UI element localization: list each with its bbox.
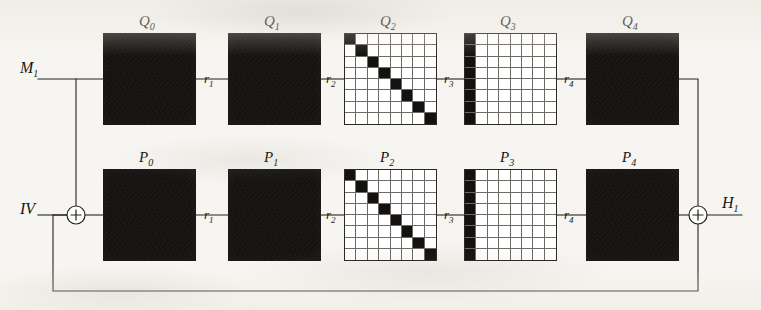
matrix-cell xyxy=(345,45,356,56)
matrix-cell xyxy=(379,215,390,226)
matrix-cell xyxy=(402,204,413,215)
matrix-cell xyxy=(522,204,533,215)
matrix-cell xyxy=(345,193,356,204)
matrix-cell xyxy=(465,238,476,249)
matrix-cell xyxy=(465,226,476,237)
block-p2[interactable] xyxy=(344,169,437,261)
block-q2[interactable] xyxy=(344,33,437,125)
block-p3[interactable] xyxy=(464,169,557,261)
matrix-cell xyxy=(391,45,402,56)
matrix-cell xyxy=(465,181,476,192)
matrix-cell xyxy=(533,68,544,79)
matrix-cell xyxy=(533,79,544,90)
matrix-cell xyxy=(499,204,510,215)
matrix-cell xyxy=(522,249,533,260)
matrix-cell xyxy=(545,68,556,79)
block-p4[interactable] xyxy=(586,169,679,261)
matrix-cell xyxy=(368,193,379,204)
matrix-cell xyxy=(425,90,436,101)
matrix-cell xyxy=(356,170,367,181)
label-r1-top: r1 xyxy=(204,72,214,89)
matrix-cell xyxy=(391,170,402,181)
matrix-cell xyxy=(356,68,367,79)
matrix-cell xyxy=(522,238,533,249)
matrix-cell xyxy=(391,102,402,113)
block-q0[interactable] xyxy=(103,33,196,125)
matrix-cell xyxy=(379,113,390,124)
matrix-cell xyxy=(356,249,367,260)
matrix-cell xyxy=(476,170,487,181)
label-p1: P1 xyxy=(264,150,278,168)
matrix-cell xyxy=(402,113,413,124)
matrix-cell xyxy=(413,170,424,181)
matrix-cell xyxy=(488,45,499,56)
matrix-cell xyxy=(368,57,379,68)
matrix-cell xyxy=(413,90,424,101)
matrix-cell xyxy=(391,34,402,45)
matrix-cell xyxy=(488,113,499,124)
matrix-cell xyxy=(413,45,424,56)
diagram-canvas: Q0 Q1 Q2 Q3 Q4 P0 P1 P2 P3 P4 r1 r2 r3 r… xyxy=(0,0,761,310)
label-iv-input: IV xyxy=(20,201,35,217)
matrix-cell xyxy=(465,215,476,226)
matrix-cell xyxy=(425,34,436,45)
label-r1-bottom: r1 xyxy=(204,208,214,225)
matrix-cell xyxy=(345,204,356,215)
label-message-input: M1 xyxy=(20,60,38,79)
matrix-cell xyxy=(511,90,522,101)
matrix-cell xyxy=(356,181,367,192)
matrix-cell xyxy=(379,238,390,249)
matrix-cell xyxy=(511,193,522,204)
matrix-cell xyxy=(379,45,390,56)
matrix-cell xyxy=(476,79,487,90)
matrix-cell xyxy=(511,249,522,260)
matrix-cell xyxy=(545,204,556,215)
block-q3[interactable] xyxy=(464,33,557,125)
matrix-cell xyxy=(402,90,413,101)
matrix-cell xyxy=(533,249,544,260)
matrix-cell xyxy=(522,68,533,79)
matrix-cell xyxy=(402,181,413,192)
matrix-cell xyxy=(425,170,436,181)
matrix-cell xyxy=(379,90,390,101)
label-r2-top: r2 xyxy=(326,72,336,89)
matrix-cell xyxy=(368,226,379,237)
matrix-cell xyxy=(511,34,522,45)
matrix-cell xyxy=(368,113,379,124)
matrix-cell xyxy=(413,68,424,79)
matrix-cell xyxy=(345,181,356,192)
block-p0[interactable] xyxy=(103,169,196,261)
matrix-cell xyxy=(499,215,510,226)
matrix-cell xyxy=(499,34,510,45)
matrix-cell xyxy=(533,204,544,215)
block-q4[interactable] xyxy=(586,33,679,125)
matrix-cell xyxy=(488,249,499,260)
matrix-cell xyxy=(476,68,487,79)
matrix-cell xyxy=(402,57,413,68)
matrix-cell xyxy=(499,226,510,237)
matrix-cell xyxy=(391,204,402,215)
matrix-cell xyxy=(476,238,487,249)
matrix-cell xyxy=(499,102,510,113)
matrix-cell xyxy=(425,193,436,204)
matrix-cell xyxy=(499,181,510,192)
matrix-cell xyxy=(476,215,487,226)
matrix-cell xyxy=(499,249,510,260)
matrix-cell xyxy=(413,204,424,215)
matrix-cell xyxy=(533,181,544,192)
matrix-cell xyxy=(511,79,522,90)
matrix-cell xyxy=(345,170,356,181)
matrix-cell xyxy=(402,238,413,249)
matrix-cell xyxy=(379,204,390,215)
label-q2: Q2 xyxy=(380,14,396,32)
matrix-cell xyxy=(425,113,436,124)
block-q1[interactable] xyxy=(228,33,321,125)
matrix-cell xyxy=(545,79,556,90)
matrix-cell xyxy=(356,193,367,204)
block-p1[interactable] xyxy=(228,169,321,261)
matrix-cell xyxy=(522,193,533,204)
matrix-cell xyxy=(522,181,533,192)
matrix-cell xyxy=(425,215,436,226)
matrix-cell xyxy=(511,204,522,215)
matrix-cell xyxy=(391,113,402,124)
